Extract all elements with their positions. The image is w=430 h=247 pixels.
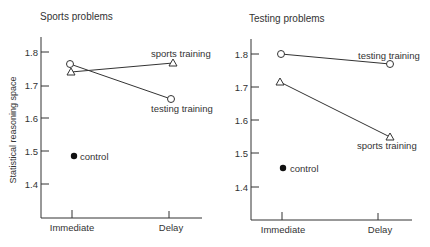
right-panel: Testing problems 1.8 1.7 1.6 1.5 1.4 Imm… [235, 13, 420, 235]
right-xtick-delay: Delay [368, 224, 393, 235]
open-triangle-marker [386, 133, 394, 140]
left-panel: Sports problems Statistical reasoning sp… [8, 11, 213, 233]
right-label-testing-training: testing training [358, 50, 420, 61]
open-circle-marker [278, 51, 285, 58]
right-ytick-1.5: 1.5 [235, 148, 248, 159]
right-label-sports-training: sports training [357, 140, 417, 151]
left-ytick-1.4: 1.4 [25, 179, 38, 190]
open-circle-marker [168, 96, 175, 103]
left-label-testing-training: testing training [151, 103, 213, 114]
open-circle-marker [67, 61, 74, 68]
right-xtick-immediate: Immediate [261, 224, 305, 235]
left-ytick-1.7: 1.7 [25, 80, 38, 91]
right-ytick-1.6: 1.6 [235, 115, 248, 126]
left-ytick-1.6: 1.6 [25, 113, 38, 124]
left-ytick-1.5: 1.5 [25, 146, 38, 157]
open-circle-marker [387, 61, 394, 68]
right-ytick-1.7: 1.7 [235, 82, 248, 93]
filled-circle-marker [280, 165, 286, 171]
left-xtick-delay: Delay [159, 222, 184, 233]
y-axis-label: Statistical reasoning space [8, 76, 18, 183]
filled-circle-marker [71, 153, 77, 159]
left-title: Sports problems [40, 11, 113, 22]
left-xtick-immediate: Immediate [50, 222, 94, 233]
right-ytick-1.4: 1.4 [235, 182, 248, 193]
chart-figure: Sports problems Statistical reasoning sp… [0, 0, 430, 247]
left-ytick-1.8: 1.8 [25, 47, 38, 58]
open-triangle-marker [276, 78, 284, 85]
left-sports-training-line [71, 63, 173, 72]
left-label-control: control [80, 151, 109, 162]
right-title: Testing problems [249, 13, 325, 24]
right-sports-training-line [280, 82, 390, 137]
right-ytick-1.8: 1.8 [235, 49, 248, 60]
open-triangle-marker [169, 59, 177, 66]
left-label-sports-training: sports training [151, 48, 211, 59]
left-testing-training-line [70, 64, 171, 99]
right-label-control: control [290, 163, 319, 174]
